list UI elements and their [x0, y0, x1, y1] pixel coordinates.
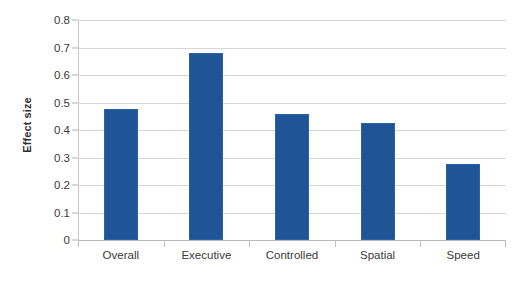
y-axis-tick-mark — [72, 75, 78, 76]
x-axis-tick-mark — [249, 241, 250, 247]
y-axis-tick-mark — [72, 240, 78, 241]
bar[interactable] — [446, 164, 480, 240]
y-axis-tick-label: 0.7 — [54, 42, 70, 54]
y-axis-tick-label: 0.8 — [54, 14, 70, 26]
x-axis-tick-mark — [420, 241, 421, 247]
bar-slot — [249, 20, 335, 240]
x-axis-category-label: Executive — [164, 249, 250, 261]
y-axis-tick-mark — [72, 20, 78, 21]
x-axis-category-label: Controlled — [249, 249, 335, 261]
bar[interactable] — [275, 114, 309, 241]
y-axis-tick-label: 0.1 — [54, 207, 70, 219]
bar[interactable] — [361, 123, 395, 240]
bar-chart: Effect size 00.10.20.30.40.50.60.70.8 Ov… — [0, 0, 521, 283]
x-axis-tick-marks — [78, 241, 506, 247]
x-axis-tick-mark — [505, 241, 506, 247]
x-axis-tick-mark — [335, 241, 336, 247]
y-axis-tick-mark — [72, 212, 78, 213]
bar-slot — [78, 20, 164, 240]
bar-slot — [164, 20, 250, 240]
y-axis-title: Effect size — [14, 0, 40, 250]
bar[interactable] — [189, 53, 223, 240]
y-axis-tick-label: 0.2 — [54, 179, 70, 191]
y-axis-tick-mark — [72, 130, 78, 131]
y-axis-title-label: Effect size — [21, 97, 33, 153]
x-axis-tick-mark — [78, 241, 79, 247]
y-axis-tick-label: 0.3 — [54, 152, 70, 164]
x-axis-tick-mark — [164, 241, 165, 247]
bars-layer — [78, 20, 506, 240]
x-axis-category-label: Overall — [78, 249, 164, 261]
y-axis-tick-label: 0.6 — [54, 69, 70, 81]
x-axis-tick-labels: OverallExecutiveControlledSpatialSpeed — [78, 249, 506, 273]
y-axis-tick-mark — [72, 185, 78, 186]
y-axis-tick-mark — [72, 47, 78, 48]
x-axis-category-label: Spatial — [335, 249, 421, 261]
y-axis-tick-label: 0 — [64, 234, 70, 246]
y-axis-tick-labels: 00.10.20.30.40.50.60.70.8 — [38, 20, 70, 240]
y-axis-tick-label: 0.4 — [54, 124, 70, 136]
x-axis-category-label: Speed — [420, 249, 506, 261]
y-axis-tick-mark — [72, 157, 78, 158]
bar-slot — [335, 20, 421, 240]
y-axis-tick-mark — [72, 102, 78, 103]
bar[interactable] — [104, 109, 138, 240]
y-axis-tick-label: 0.5 — [54, 97, 70, 109]
bar-slot — [420, 20, 506, 240]
